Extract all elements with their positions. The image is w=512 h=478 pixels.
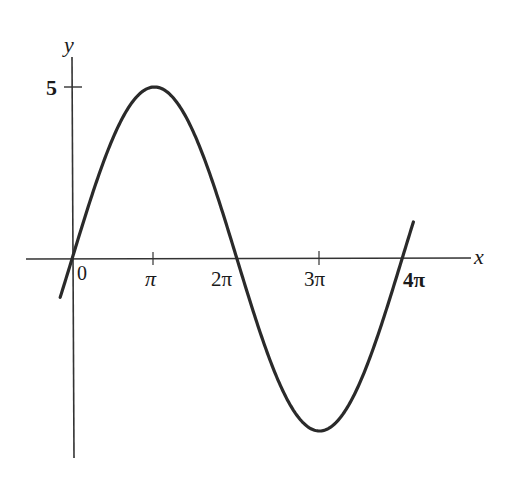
x-tick-label-2pi: 2π [211,267,233,291]
x-axis [26,258,471,259]
x-tick-label-pi: π [145,266,157,291]
x-tick-label-0: 0 [77,262,87,284]
y-tick-label-5: 5 [46,75,57,100]
x-tick-label-3pi: 3π [304,267,326,291]
y-axis-label: y [62,32,74,57]
x-tick-label-4pi: 4π [403,268,426,292]
sine-chart: y x 5 0 π 2π 3π 4π [0,0,512,478]
x-axis-label: x [473,244,484,269]
